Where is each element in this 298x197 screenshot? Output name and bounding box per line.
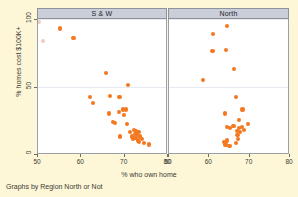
data-point bbox=[237, 118, 241, 122]
x-tick-label: 50 bbox=[160, 158, 176, 165]
panel-north: North bbox=[168, 8, 289, 154]
x-tick-label: 60 bbox=[72, 158, 88, 165]
grid-line bbox=[38, 87, 166, 88]
x-tick-label: 50 bbox=[29, 158, 45, 165]
data-point bbox=[37, 20, 41, 24]
data-point bbox=[88, 95, 92, 99]
data-point bbox=[118, 134, 122, 138]
data-point bbox=[107, 111, 111, 115]
data-point bbox=[117, 95, 121, 99]
data-point bbox=[242, 128, 246, 132]
data-point bbox=[142, 141, 146, 145]
panel-header-label: S & W bbox=[37, 8, 167, 19]
y-axis-title: % homes cost $100K+ bbox=[15, 0, 22, 132]
y-tick-label: 50 bbox=[25, 77, 32, 93]
x-tick-mark bbox=[37, 154, 38, 157]
data-point bbox=[125, 122, 129, 126]
data-point bbox=[58, 26, 62, 30]
y-tick-label: 100 bbox=[25, 10, 32, 26]
data-point bbox=[71, 36, 75, 40]
data-point bbox=[227, 144, 231, 148]
data-point bbox=[225, 24, 229, 28]
data-point bbox=[225, 138, 229, 142]
x-tick-label: 70 bbox=[241, 158, 257, 165]
x-tick-mark bbox=[80, 154, 81, 157]
x-axis-title: % who own home bbox=[0, 171, 298, 178]
data-point bbox=[240, 107, 244, 111]
data-point bbox=[41, 39, 45, 43]
data-point bbox=[122, 113, 126, 117]
x-tick-mark bbox=[289, 154, 290, 157]
data-point bbox=[124, 107, 128, 111]
x-tick-label: 80 bbox=[281, 158, 297, 165]
data-point bbox=[234, 95, 238, 99]
data-point bbox=[234, 141, 238, 145]
grid-line bbox=[169, 19, 288, 20]
plot-area bbox=[168, 19, 289, 154]
data-point bbox=[224, 48, 228, 52]
data-point bbox=[104, 71, 108, 75]
grid-line bbox=[38, 19, 166, 20]
data-point bbox=[246, 122, 250, 126]
data-point bbox=[210, 49, 214, 53]
data-point bbox=[113, 121, 117, 125]
data-point bbox=[232, 67, 236, 71]
x-tick-mark bbox=[124, 154, 125, 157]
x-tick-mark bbox=[208, 154, 209, 157]
data-point bbox=[147, 142, 151, 146]
scatter-plot-figure: % homes cost $100K+ 050100 S & W50607080… bbox=[0, 0, 298, 197]
data-point bbox=[108, 94, 112, 98]
data-point bbox=[211, 32, 215, 36]
x-tick-label: 60 bbox=[200, 158, 216, 165]
data-point bbox=[91, 101, 95, 105]
figure-caption: Graphs by Region North or Not bbox=[6, 183, 103, 190]
data-point bbox=[236, 137, 240, 141]
data-point bbox=[117, 110, 121, 114]
x-tick-mark bbox=[168, 154, 169, 157]
plot-area bbox=[37, 19, 167, 154]
data-point bbox=[201, 78, 205, 82]
data-point bbox=[223, 111, 227, 115]
panel-header-label: North bbox=[168, 8, 289, 19]
grid-line bbox=[169, 87, 288, 88]
panel-sw: S & W bbox=[37, 8, 167, 154]
x-tick-mark bbox=[249, 154, 250, 157]
x-tick-label: 70 bbox=[116, 158, 132, 165]
data-point bbox=[231, 124, 235, 128]
